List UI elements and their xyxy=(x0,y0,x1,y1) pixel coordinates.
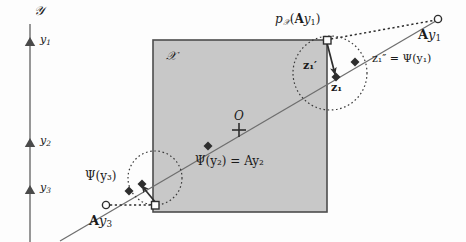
arrow-to-z1 xyxy=(327,43,335,74)
y-axis-tick-label-1: y1 xyxy=(40,34,51,46)
Ay3-sub: 3 xyxy=(106,219,112,229)
z1-doubleprime-equation-label: z₁″ = Ψ(y₁) xyxy=(372,53,431,64)
z1-prime-label: z₁′ xyxy=(303,60,317,71)
marker-Ay3-open-circle xyxy=(102,201,109,208)
tick-1-sub: 1 xyxy=(46,38,51,47)
Ay1-A: A xyxy=(418,27,428,42)
Ay1-label: Ay1 xyxy=(418,28,441,43)
projection-sub-x: 𝒳 xyxy=(283,17,290,27)
marker-z3-diamond xyxy=(138,180,147,189)
y-axis-tick-label-2: y2 xyxy=(40,135,51,147)
y-axis-tick-marker-3 xyxy=(25,185,35,194)
y-axis-tick-marker-2 xyxy=(25,138,35,147)
marker-Ay1-open-circle xyxy=(434,15,441,22)
marker-psi-y3-diamond xyxy=(125,187,134,196)
Ay3-label: Ay3 xyxy=(89,214,112,229)
y-axis-group xyxy=(25,24,35,242)
projection-A: A xyxy=(294,12,303,26)
tick-2-sub: 2 xyxy=(46,139,51,148)
tick-3-sub: 3 xyxy=(46,186,51,195)
set-x-label: 𝒳 xyxy=(166,50,176,62)
y-axis-tick-label-3: y3 xyxy=(40,182,51,194)
marker-z1-doubleprime-diamond xyxy=(351,58,360,67)
marker-px-Ay1-square xyxy=(324,37,332,45)
origin-label: O xyxy=(234,110,244,122)
set-x-rectangle xyxy=(153,40,327,212)
marker-px-Ay3-square xyxy=(152,202,160,210)
y-axis-tick-marker-1 xyxy=(25,37,35,46)
figure-canvas: 𝒴 y1 y2 y3 𝒳 O p𝒳(Ay1) Ay1 z₁′ z₁ z₁″ = … xyxy=(0,0,466,242)
projection-p: p xyxy=(275,12,283,26)
projection-top-label: p𝒳(Ay1) xyxy=(275,13,320,26)
z1-label: z₁ xyxy=(331,82,342,93)
projection-close: ) xyxy=(316,12,321,26)
Ay3-A: A xyxy=(89,213,99,228)
Ay1-sub: 1 xyxy=(435,33,441,43)
y-axis-label: 𝒴 xyxy=(34,4,44,17)
diagram-svg xyxy=(0,0,466,242)
psi-y3-label: Ψ(y₃) xyxy=(85,170,116,182)
psi-y2-equation-label: Ψ(y₂) = Ay₂ xyxy=(195,155,264,167)
